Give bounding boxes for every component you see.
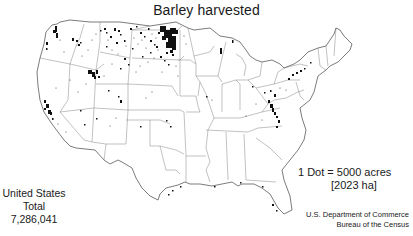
sparse-dots (56, 34, 287, 133)
source-line2: Bureau of the Census (306, 220, 409, 230)
total-value: 7,286,041 (0, 213, 68, 226)
source-credit: U.S. Department of Commerce Bureau of th… (306, 210, 409, 230)
source-line1: U.S. Department of Commerce (306, 210, 409, 220)
legend-dot-value: 1 Dot = 5000 acres (298, 166, 391, 179)
total-summary: United States Total 7,286,041 (0, 187, 68, 226)
legend-metric-value: [2023 ha] (298, 179, 391, 192)
total-label-line2: Total (0, 200, 68, 213)
barley-dots (44, 26, 312, 212)
dot-legend: 1 Dot = 5000 acres [2023 ha] (298, 166, 391, 192)
total-label-line1: United States (0, 187, 68, 200)
